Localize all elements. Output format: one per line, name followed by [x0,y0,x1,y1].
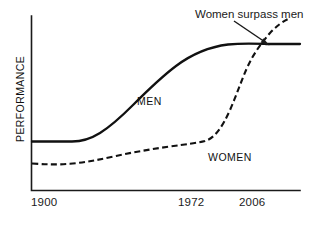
x-tick-label-2006: 2006 [239,196,265,208]
series-label-men: MEN [137,95,162,107]
x-tick-label-1972: 1972 [178,196,204,208]
annotation-arrow-line [234,21,265,42]
y-axis-title: PERFORMANCE [14,56,26,142]
series-label-women: WOMEN [208,151,252,163]
men-performance-line [32,44,300,142]
x-tick-label-1900: 1900 [31,196,57,208]
annotation-women-surpass-men: Women surpass men [195,8,303,20]
chart-canvas: PERFORMANCE MEN WOMEN Women surpass men … [0,0,314,227]
performance-over-time-chart: PERFORMANCE MEN WOMEN Women surpass men … [0,0,314,227]
